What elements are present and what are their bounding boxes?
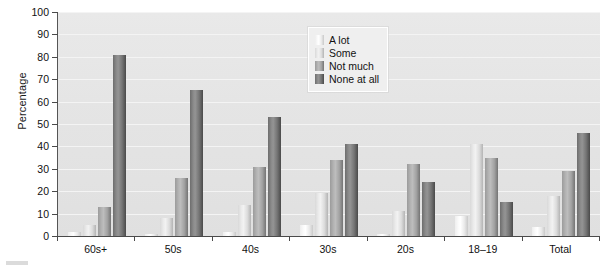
y-axis-tick — [52, 146, 58, 147]
bar-18-19-not-much — [485, 158, 498, 236]
x-axis-tick — [367, 236, 368, 241]
y-axis-tick-label: 60 — [37, 96, 49, 108]
bar-18-19-a-lot — [455, 216, 468, 236]
legend-label: None at all — [329, 73, 379, 85]
legend-label: A lot — [329, 34, 349, 46]
legend-swatch-icon — [315, 48, 324, 58]
x-axis-tick — [289, 236, 290, 241]
bar-40s-none-at-all — [268, 117, 281, 236]
bar-total-a-lot — [532, 227, 545, 236]
legend-item: Not much — [315, 60, 379, 72]
y-axis-tick-label: 100 — [31, 6, 49, 18]
y-axis-tick — [52, 12, 58, 13]
x-axis-tick — [57, 236, 58, 241]
y-axis-title: Percentage — [16, 41, 28, 161]
x-axis-label-30s: 30s — [320, 243, 337, 255]
y-axis-tick-label: 50 — [37, 118, 49, 130]
legend-label: Some — [329, 47, 356, 59]
gridline — [58, 146, 600, 147]
x-axis-tick — [212, 236, 213, 241]
legend-label: Not much — [329, 60, 374, 72]
x-axis-tick — [444, 236, 445, 241]
x-axis-tick — [522, 236, 523, 241]
y-axis-tick — [52, 124, 58, 125]
legend-item: Some — [315, 47, 379, 59]
y-axis-tick-label: 90 — [37, 28, 49, 40]
y-axis-tick — [52, 214, 58, 215]
y-axis-tick-label: 30 — [37, 163, 49, 175]
gridline — [58, 169, 600, 170]
bar-60s--some — [83, 225, 96, 236]
x-axis-label-20s: 20s — [397, 243, 414, 255]
y-axis-tick — [52, 34, 58, 35]
bar-20s-some — [392, 211, 405, 236]
legend-swatch-icon — [315, 61, 324, 71]
bar-30s-not-much — [330, 160, 343, 236]
bar-60s--none-at-all — [113, 55, 126, 236]
y-axis-tick-label: 0 — [43, 230, 49, 242]
gridline — [58, 102, 600, 103]
bar-50s-not-much — [175, 178, 188, 236]
bar-total-none-at-all — [577, 133, 590, 236]
bar-30s-a-lot — [300, 225, 313, 236]
x-axis-label-60s-: 60s+ — [84, 243, 107, 255]
y-axis-tick-label: 10 — [37, 208, 49, 220]
legend-swatch-icon — [315, 35, 324, 45]
y-axis-tick — [52, 191, 58, 192]
gridline — [58, 214, 600, 215]
scan-artifact — [6, 261, 28, 265]
legend-item: A lot — [315, 34, 379, 46]
bar-50s-none-at-all — [190, 90, 203, 236]
legend-swatch-icon — [315, 74, 324, 84]
gridline — [58, 12, 600, 13]
y-axis-tick-label: 40 — [37, 140, 49, 152]
x-axis-tick — [134, 236, 135, 241]
bar-18-19-none-at-all — [500, 202, 513, 236]
x-axis-label-18-19: 18–19 — [468, 243, 497, 255]
bar-total-some — [547, 196, 560, 236]
bar-30s-some — [315, 193, 328, 236]
y-axis-tick-label: 80 — [37, 51, 49, 63]
bar-chart: Percentage 0102030405060708090100 A lotS… — [0, 0, 605, 266]
bar-30s-none-at-all — [345, 144, 358, 236]
bar-20s-none-at-all — [422, 182, 435, 236]
bar-40s-not-much — [253, 167, 266, 236]
bar-20s-not-much — [407, 164, 420, 236]
x-axis-label-40s: 40s — [242, 243, 259, 255]
x-axis-label-50s: 50s — [165, 243, 182, 255]
y-axis-tick — [52, 79, 58, 80]
y-axis-tick-label: 70 — [37, 73, 49, 85]
bar-18-19-some — [470, 144, 483, 236]
x-axis-line — [57, 236, 599, 237]
gridline — [58, 191, 600, 192]
y-axis-tick — [52, 102, 58, 103]
gridline — [58, 124, 600, 125]
y-axis-tick-label: 20 — [37, 185, 49, 197]
bar-40s-some — [238, 205, 251, 236]
bar-50s-some — [160, 218, 173, 236]
legend-item: None at all — [315, 73, 379, 85]
bar-60s--not-much — [98, 207, 111, 236]
y-axis-tick — [52, 57, 58, 58]
chart-legend: A lotSomeNot muchNone at all — [308, 27, 388, 92]
x-axis-tick — [599, 236, 600, 241]
bar-total-not-much — [562, 171, 575, 236]
x-axis-label-total: Total — [549, 243, 571, 255]
y-axis-tick — [52, 169, 58, 170]
